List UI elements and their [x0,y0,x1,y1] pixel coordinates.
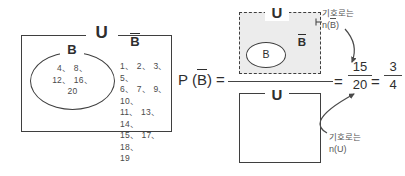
element-line: 6、 7、 9、 10、 [120,84,172,107]
element-line: 11、 13、 14、 [120,107,172,130]
denominator-universe-rectangle [239,93,321,163]
result-fraction-three-quarters: 3 4 [384,59,402,92]
probability-expression: P (B) = [178,70,225,90]
main-universe-label: U [86,22,118,44]
numerator-annotation-arrow [345,29,354,62]
element-line: 20 [36,86,109,98]
element-line: 1、 2、 3、 5、 [120,61,172,84]
main-fraction-bar [228,81,333,82]
probability-suffix: ) = [207,71,225,88]
fraction-numerator: 15 [348,59,372,74]
annotation-numerator-line1: 기호로는 [322,7,382,19]
numerator-universe-label: U [265,4,289,21]
annotation-denominator-line2: n(U) [329,143,389,155]
numerator-set-b-complement-label: B [292,35,312,49]
annotation-numerator-suffix: ) [336,20,339,30]
main-set-b-complement-letter: B [130,34,139,50]
fraction-denominator: 4 [384,77,402,92]
annotation-denominator: 기호로는 n(U) [329,131,389,155]
element-line: 12、 16、 [36,75,109,87]
denominator-annotation-arrow [320,94,354,133]
numerator-set-b-complement-letter: B [298,35,306,49]
main-set-b-elements: 4、 8、12、 16、20 [36,63,109,98]
fraction-divider [384,75,402,76]
probability-prefix: P ( [178,71,197,88]
element-line: 4、 8、 [36,63,109,75]
annotation-numerator-arg: B [330,19,336,31]
annotation-denominator-line1: 기호로는 [329,131,389,143]
annotation-numerator: 기호로는 n(B) [322,7,382,31]
probability-argument: B [197,70,207,90]
fraction-numerator: 3 [384,59,402,74]
main-set-b-complement-elements: 1、 2、 3、 5、6、 7、 9、 10、11、 13、 14、15、 17… [120,61,172,165]
main-set-b-complement-label: B [124,34,146,50]
annotation-numerator-line2: n(B) [322,19,382,31]
figure-canvas: U B 4、 8、12、 16、20 B 1、 2、 3、 5、6、 7、 9、… [0,0,405,176]
result-fraction-fifteen-twentieths: 15 20 [348,59,372,92]
annotation-numerator-prefix: n( [322,20,330,30]
fraction-divider [348,75,372,76]
main-set-b-label: B [60,42,84,58]
equals-sign-second: = [371,72,380,92]
equals-sign-first: = [334,72,343,92]
element-line: 19 [120,153,172,165]
element-line: 15、 17、 18、 [120,130,172,153]
fraction-denominator: 20 [348,77,372,92]
numerator-set-b-label: B [246,48,286,61]
denominator-universe-label: U [265,86,289,103]
